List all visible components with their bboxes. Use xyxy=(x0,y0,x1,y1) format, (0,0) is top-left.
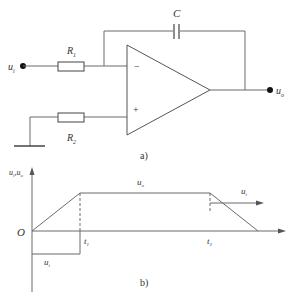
ui-bottom-label: ui xyxy=(44,257,51,268)
inverting-input-sign: − xyxy=(134,61,140,72)
y-axis-arrow xyxy=(30,167,35,175)
waveform-graph: ui,uo O uo ui ui t1 t2 b) xyxy=(9,167,286,292)
capacitor-label: C xyxy=(173,7,181,19)
integrator-circuit: ui R1 C − + uo R2 a) xyxy=(8,7,284,162)
uo-label: uo xyxy=(137,177,145,188)
caption-a: a) xyxy=(140,150,148,162)
output-terminal-dot xyxy=(267,87,273,93)
uo-waveform xyxy=(32,193,258,231)
caption-b: b) xyxy=(140,277,148,289)
t1-label: t1 xyxy=(84,236,89,247)
r1-label: R1 xyxy=(66,45,76,58)
op-amp-triangle xyxy=(127,45,210,135)
ui-negative-pulse xyxy=(32,231,80,254)
y-axis-label: ui,uo xyxy=(9,168,23,178)
integrator-figure: ui R1 C − + uo R2 a) ui,uo O xyxy=(0,0,292,297)
output-label: uo xyxy=(276,85,284,98)
origin-label: O xyxy=(17,226,25,238)
ui-arrow xyxy=(256,201,264,206)
noninverting-input-sign: + xyxy=(133,104,139,115)
resistor-r2 xyxy=(58,113,84,122)
ui-top-label: ui xyxy=(241,186,248,197)
r2-label: R2 xyxy=(66,132,76,145)
input-label: ui xyxy=(8,61,15,74)
resistor-r1 xyxy=(58,62,84,71)
x-axis-arrow xyxy=(278,229,286,234)
t2-label: t2 xyxy=(207,236,213,247)
